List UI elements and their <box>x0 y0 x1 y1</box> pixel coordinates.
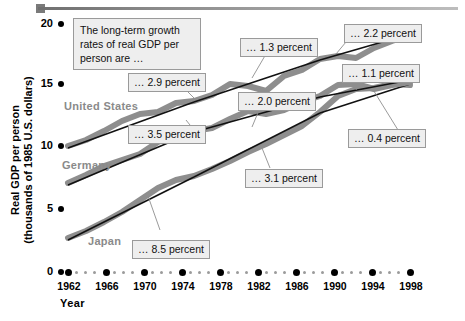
x-minor-dot <box>122 271 125 274</box>
series-label-japan: Japan <box>88 235 121 247</box>
x-minor-dot <box>245 271 248 274</box>
x-tick-label-1974: 1974 <box>163 280 203 292</box>
y-axis-title-line1: Real GDP per person <box>9 105 21 215</box>
x-tick-label-1970: 1970 <box>125 280 165 292</box>
callout-us-late: … 2.2 percent <box>344 24 422 43</box>
x-tick-label-1990: 1990 <box>315 280 355 292</box>
x-minor-dot <box>350 271 353 274</box>
callout-jp-mid: … 3.1 percent <box>245 169 323 188</box>
y-tick-dot-5 <box>58 206 64 212</box>
x-axis-title: Year <box>60 297 85 309</box>
x-tick-label-1978: 1978 <box>201 280 241 292</box>
callout-us-mid: … 1.3 percent <box>240 38 318 57</box>
y-tick-dot-0 <box>58 269 64 275</box>
x-tick-label-1966: 1966 <box>87 280 127 292</box>
x-minor-dot <box>113 271 116 274</box>
x-minor-dot <box>84 271 87 274</box>
y-tick-dot-10 <box>58 143 64 149</box>
leader-jp-early <box>148 196 160 230</box>
x-minor-dot <box>227 271 230 274</box>
y-axis-title-line2: (thousands of 1985 U.S. dollars) <box>22 76 34 243</box>
x-minor-dot <box>160 271 163 274</box>
series-japan-trend-2 <box>194 113 320 177</box>
y-tick-label-20: 20 <box>29 17 53 29</box>
x-tick-dot-1990 <box>331 269 338 276</box>
x-minor-dot <box>265 271 268 274</box>
chart-figure: 20 15 10 5 0 Real GDP per person (thousa… <box>0 0 465 321</box>
x-minor-dot <box>151 271 154 274</box>
x-minor-dot <box>274 271 277 274</box>
leader-jp-late <box>372 88 398 130</box>
x-minor-dot <box>379 271 382 274</box>
x-minor-dot <box>388 271 391 274</box>
series-japan-trend-1 <box>68 177 194 240</box>
callout-intro: The long-term growth rates of real GDP p… <box>73 18 201 70</box>
x-minor-dot <box>321 271 324 274</box>
x-tick-dot-1966 <box>103 269 110 276</box>
x-minor-dot <box>283 271 286 274</box>
x-minor-dot <box>341 271 344 274</box>
x-minor-dot <box>131 271 134 274</box>
series-label-united-states: United States <box>64 100 138 112</box>
x-minor-dot <box>93 271 96 274</box>
x-tick-dot-1962 <box>65 269 72 276</box>
x-minor-dot <box>207 271 210 274</box>
x-tick-dot-1994 <box>369 269 376 276</box>
y-tick-dot-20 <box>58 21 64 27</box>
x-tick-label-1962: 1962 <box>49 280 89 292</box>
x-minor-dot <box>359 271 362 274</box>
callout-jp-late: … 0.4 percent <box>348 129 426 148</box>
x-tick-dot-1982 <box>255 269 262 276</box>
x-tick-label-1998: 1998 <box>391 280 431 292</box>
callout-de-mid: … 2.0 percent <box>238 92 316 111</box>
x-tick-dot-1970 <box>141 269 148 276</box>
x-minor-dot <box>303 271 306 274</box>
x-minor-dot <box>189 271 192 274</box>
x-tick-dot-1986 <box>293 269 300 276</box>
x-minor-dot <box>236 271 239 274</box>
x-tick-label-1994: 1994 <box>353 280 393 292</box>
x-minor-dot <box>75 271 78 274</box>
x-minor-dot <box>198 271 201 274</box>
y-tick-label-0: 0 <box>29 265 53 277</box>
x-tick-dot-1998 <box>407 269 414 276</box>
callout-us-early: … 2.9 percent <box>128 73 206 92</box>
leader-us-mid <box>252 54 266 78</box>
x-tick-label-1986: 1986 <box>277 280 317 292</box>
x-minor-dot <box>312 271 315 274</box>
callout-de-early: … 3.5 percent <box>128 125 206 144</box>
callout-jp-early: … 8.5 percent <box>132 240 210 259</box>
y-axis-title: Real GDP per person (thousands of 1985 U… <box>9 65 35 255</box>
x-tick-label-1982: 1982 <box>239 280 279 292</box>
x-tick-dot-1978 <box>217 269 224 276</box>
y-tick-dot-15 <box>58 81 64 87</box>
callout-de-late: … 1.1 percent <box>342 64 420 83</box>
x-minor-dot <box>169 271 172 274</box>
x-minor-dot <box>397 271 400 274</box>
leader-jp-mid <box>262 148 270 168</box>
series-label-germany: Germany <box>62 159 112 171</box>
x-tick-dot-1974 <box>179 269 186 276</box>
